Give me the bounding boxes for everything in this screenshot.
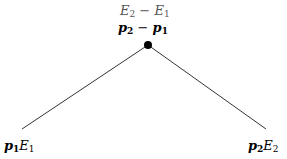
label-text: p <box>248 138 257 153</box>
label-sub: 1 <box>29 144 35 154</box>
right-leaf-label: p2E2 <box>248 139 279 154</box>
top-label-energy-difference: E2 − E1 <box>120 4 170 19</box>
label-text: E <box>154 3 164 18</box>
root-node-dot <box>144 41 152 49</box>
label-sub: 2 <box>273 144 279 154</box>
label-text: p <box>118 20 127 35</box>
label-sub: 1 <box>164 9 170 19</box>
left-leaf-label: p1E1 <box>4 139 35 154</box>
label-op: − <box>135 3 154 18</box>
label-sub: 1 <box>162 26 168 36</box>
label-text: p <box>153 20 162 35</box>
label-text: p <box>4 138 13 153</box>
label-text: E <box>263 138 273 153</box>
right-edge <box>148 45 266 129</box>
label-op: − <box>133 20 152 35</box>
left-edge <box>22 45 148 129</box>
top-label-momentum-difference: p2 − p1 <box>118 21 168 36</box>
label-text: E <box>19 138 29 153</box>
label-text: E <box>120 3 130 18</box>
